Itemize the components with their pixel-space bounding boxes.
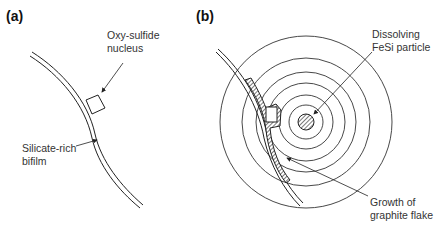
- nucleus-label-line1: Oxy-sulfide: [107, 29, 160, 42]
- nucleus-label-line2: nucleus: [107, 42, 160, 55]
- bifilm-label-line1: Silicate-rich: [22, 142, 76, 155]
- nucleus-label-a: Oxy-sulfide nucleus: [107, 29, 160, 55]
- particle-label-line1: Dissolving: [372, 28, 430, 41]
- growth-label-line1: Growth of: [370, 196, 433, 209]
- nucleus-arrow-a: [102, 63, 123, 92]
- bifilm-a: [30, 52, 143, 208]
- oxy-sulfide-nucleus-b: [266, 107, 277, 122]
- growth-arrow-b: [287, 158, 368, 196]
- oxy-sulfide-nucleus-a: [86, 95, 105, 114]
- particle-arrow-b: [314, 52, 372, 114]
- bifilm-label-a: Silicate-rich bifilm: [22, 142, 76, 168]
- fesi-particle: [298, 114, 314, 130]
- particle-label-b: Dissolving FeSi particle: [372, 28, 430, 54]
- bifilm-label-line2: bifilm: [22, 155, 76, 168]
- growth-label-b: Growth of graphite flake: [370, 196, 433, 222]
- growth-label-line2: graphite flake: [370, 209, 433, 222]
- particle-label-line2: FeSi particle: [372, 41, 430, 54]
- graphite-flake: [245, 78, 290, 183]
